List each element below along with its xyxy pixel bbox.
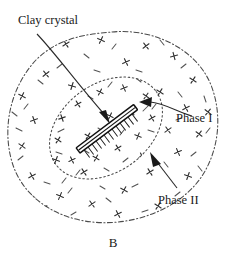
clay-crystal-leader-icon — [37, 34, 104, 114]
figure-canvas: Clay crystal Phase I Phase II B — [0, 0, 239, 255]
phase-two-label: Phase II — [158, 193, 199, 207]
phase-one-label: Phase I — [176, 111, 212, 125]
clay-crystal-label: Clay crystal — [18, 13, 79, 27]
phase-one-arrowhead-icon — [139, 97, 152, 107]
phase-one-annotation: Phase I — [139, 97, 212, 125]
clay-crystal-annotation: Clay crystal — [18, 13, 110, 124]
figure-caption: B — [109, 235, 118, 250]
x-mark-group-inner — [55, 85, 155, 163]
clay-crystal-arrowhead-icon — [99, 110, 110, 124]
phase-two-annotation: Phase II — [150, 152, 199, 207]
clay-crystal-phase-figure: Clay crystal Phase I Phase II B — [0, 0, 239, 255]
